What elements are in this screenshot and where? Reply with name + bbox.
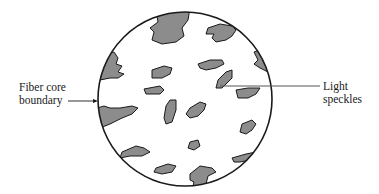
speckle	[152, 66, 172, 78]
speckle	[216, 70, 232, 88]
label-fiber-core-boundary: Fiber core boundary	[19, 81, 66, 107]
speckle	[198, 60, 224, 70]
speckle	[164, 100, 176, 124]
speckle	[188, 140, 200, 150]
speckle	[90, 52, 124, 82]
speckle	[190, 166, 216, 190]
speckle	[186, 102, 206, 118]
speckle	[144, 86, 164, 94]
speckle	[236, 88, 260, 98]
speckle	[90, 106, 138, 130]
label-line: Light	[323, 80, 362, 93]
label-light-speckles: Light speckles	[323, 80, 362, 106]
label-line: speckles	[323, 93, 362, 106]
speckle	[240, 120, 256, 134]
speckle	[206, 24, 236, 42]
label-line: boundary	[19, 94, 66, 107]
speckles	[90, 8, 276, 190]
speckle	[254, 50, 276, 72]
leader-fiber-core	[68, 99, 98, 103]
label-line: Fiber core	[19, 81, 66, 94]
speckle	[120, 146, 150, 158]
speckle	[154, 164, 176, 174]
